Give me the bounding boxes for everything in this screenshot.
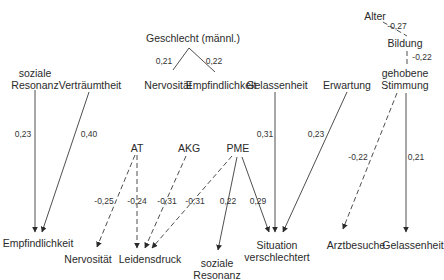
coef-vertraeumtheit-empfindlichkeit: 0,40 (81, 129, 98, 139)
coef-pme-situation: 0,29 (250, 196, 267, 206)
coef-erwartung-situation: 0,23 (308, 129, 325, 139)
node-empfindlichkeit-bottom: Empfindlichkeit (3, 237, 74, 249)
node-situation-line1: Situation (244, 239, 309, 251)
node-soziale-resonanz-bottom-line2: Resonanz (193, 269, 240, 280)
edge-geschlecht-nervositaet (173, 48, 189, 70)
coef-alter-bildung: -0,27 (387, 21, 406, 31)
coef-bildung-stimmung: -0,22 (412, 52, 431, 62)
node-at: AT (131, 142, 144, 154)
node-akg: AKG (178, 142, 200, 154)
node-nervositaet-top: Nervosität (144, 79, 191, 91)
node-arztbesuche: Arztbesuche (327, 239, 385, 251)
node-vertraeumtheit: Verträumtheit (59, 79, 121, 91)
node-situation-verschlechtert: Situation verschlechtert (244, 239, 309, 263)
coef-geschlecht-empfindlichkeit: 0,22 (206, 56, 223, 66)
node-leidensdruck: Leidensdruck (119, 253, 181, 265)
node-gehobene-stimmung: gehobene Stimmung (381, 67, 428, 91)
edge-pme-situation (242, 157, 269, 232)
coef-pme-sozres: 0,22 (220, 196, 237, 206)
path-diagram: Geschlecht (männl.) Alter Bildung gehobe… (0, 0, 444, 280)
node-geschlecht: Geschlecht (männl.) (146, 32, 240, 44)
node-soziale-resonanz-top-line2: Resonanz (11, 79, 58, 91)
node-soziale-resonanz-bottom-line1: soziale (193, 257, 240, 269)
coef-geschlecht-nervositaet: 0,21 (156, 56, 173, 66)
coef-sozres-empfindlichkeit: 0,23 (15, 129, 32, 139)
node-soziale-resonanz-bottom: soziale Resonanz (193, 257, 240, 280)
node-gehobene-stimmung-line1: gehobene (381, 67, 428, 79)
edge-erwartung-situation (283, 92, 347, 232)
coef-pme-leidensdruck: -0,31 (185, 196, 204, 206)
node-soziale-resonanz-top-line1: soziale (11, 67, 58, 79)
node-soziale-resonanz-top: soziale Resonanz (11, 67, 58, 91)
node-erwartung: Erwartung (323, 79, 371, 91)
coef-at-nervositaet: -0,25 (94, 196, 113, 206)
node-nervositaet-bottom: Nervosität (64, 253, 111, 265)
node-situation-line2: verschlechtert (244, 251, 309, 263)
node-bildung: Bildung (387, 37, 422, 49)
coef-akg-leidensdruck: -0,31 (157, 196, 176, 206)
coef-stimmung-gelassenheit: 0,21 (408, 152, 425, 162)
node-gelassenheit-top: Gelassenheit (246, 79, 307, 91)
coef-gelassenheit-situation: 0,31 (257, 129, 274, 139)
node-pme: PME (227, 142, 250, 154)
node-gelassenheit-bottom: Gelassenheit (382, 239, 443, 251)
coef-stimmung-arztbesuche: -0,22 (348, 152, 367, 162)
edge-vertraeumtheit-empfindlichkeit (42, 92, 89, 232)
coef-at-leidensdruck: -0,24 (127, 196, 146, 206)
node-gehobene-stimmung-line2: Stimmung (381, 79, 428, 91)
node-alter: Alter (364, 10, 386, 22)
